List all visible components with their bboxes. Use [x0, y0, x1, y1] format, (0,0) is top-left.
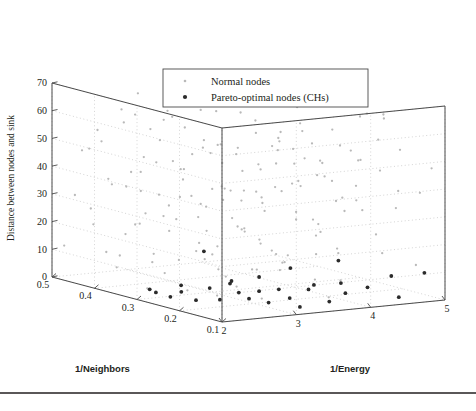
data-point-normal: [259, 242, 261, 244]
data-point-normal: [236, 225, 238, 227]
data-point-normal: [124, 233, 126, 235]
data-point-normal: [331, 128, 333, 130]
data-point-normal: [172, 160, 174, 162]
data-point-normal: [359, 115, 361, 117]
data-point-normal: [175, 218, 177, 220]
data-point-normal: [280, 190, 282, 192]
data-point-normal: [316, 174, 318, 176]
legend-label: Normal nodes: [211, 76, 270, 87]
data-point-pareto: [337, 259, 341, 263]
data-point-normal: [241, 170, 243, 172]
data-point-normal: [96, 129, 98, 131]
data-point-normal: [258, 238, 260, 240]
data-point-normal: [397, 190, 399, 192]
data-point-normal: [321, 162, 323, 164]
data-point-pareto: [397, 295, 401, 299]
data-point-normal: [283, 261, 285, 263]
data-point-normal: [271, 145, 273, 147]
data-point-normal: [184, 126, 186, 128]
data-point-normal: [357, 159, 359, 161]
data-point-normal: [235, 285, 237, 287]
data-point-normal: [204, 258, 206, 260]
data-point-normal: [314, 278, 316, 280]
data-point-normal: [149, 128, 151, 130]
data-point-normal: [295, 218, 297, 220]
data-point-pareto: [344, 291, 348, 295]
data-point-normal: [168, 204, 170, 206]
data-point-normal: [239, 111, 241, 113]
data-point-normal: [277, 137, 279, 139]
data-point-pareto: [307, 288, 311, 292]
data-point-normal: [254, 119, 256, 121]
data-point-normal: [171, 116, 173, 118]
data-point-normal: [240, 199, 242, 201]
axis-tick-label: 3: [296, 318, 301, 329]
data-point-pareto: [148, 287, 152, 291]
data-point-normal: [111, 183, 113, 185]
data-point-pareto: [257, 289, 261, 293]
data-point-normal: [379, 169, 381, 171]
data-point-normal: [377, 139, 379, 141]
data-point-normal: [125, 185, 127, 187]
axis-tick-label: 70: [37, 77, 47, 88]
data-point-normal: [381, 252, 383, 254]
data-point-normal: [90, 207, 92, 209]
data-point-pareto: [423, 271, 427, 275]
data-point-normal: [328, 296, 330, 298]
data-point-normal: [297, 180, 299, 182]
axis-title: 1/Neighbors: [75, 363, 130, 374]
axis-title: 1/Energy: [330, 363, 371, 374]
data-point-normal: [191, 153, 193, 155]
data-point-normal: [281, 262, 283, 264]
data-point-normal: [299, 122, 301, 124]
data-point-normal: [336, 247, 338, 249]
data-point-normal: [261, 297, 263, 299]
data-point-normal: [430, 167, 432, 169]
axis-tick-label: 30: [37, 188, 47, 199]
data-point-normal: [200, 203, 202, 205]
data-point-normal: [337, 252, 339, 254]
data-point-normal: [143, 156, 145, 158]
legend-box[interactable]: Normal nodesPareto-optimal nodes (CHs): [163, 69, 368, 107]
axis-tick-label: 0.5: [37, 279, 50, 290]
data-point-normal: [279, 269, 281, 271]
data-point-normal: [319, 160, 321, 162]
data-point-normal: [293, 163, 295, 165]
data-point-normal: [120, 108, 122, 110]
axis-tick-label: 0.1: [207, 324, 220, 335]
data-point-pareto: [366, 285, 370, 289]
data-point-normal: [134, 223, 136, 225]
data-point-normal: [331, 180, 333, 182]
data-point-normal: [182, 178, 184, 180]
data-point-pareto: [179, 283, 183, 287]
data-point-normal: [415, 264, 417, 266]
data-point-normal: [315, 234, 317, 236]
data-point-normal: [100, 140, 102, 142]
data-point-normal: [215, 110, 217, 112]
data-point-normal: [355, 185, 357, 187]
axis-title: Distance between nodes and sink: [6, 115, 16, 241]
data-point-pareto: [267, 301, 271, 305]
data-point-normal: [312, 218, 314, 220]
data-point-normal: [195, 250, 197, 252]
data-point-normal: [279, 131, 281, 133]
data-point-normal: [186, 289, 188, 291]
data-point-normal: [217, 144, 219, 146]
axis-titles: Distance between nodes and sink1/Neighbo…: [6, 115, 371, 374]
data-point-normal: [256, 268, 258, 270]
data-point-pareto: [339, 281, 343, 285]
data-point-normal: [198, 242, 200, 244]
data-point-normal: [197, 216, 199, 218]
data-point-normal: [241, 228, 243, 230]
legend-marker: [183, 95, 187, 99]
data-point-pareto: [194, 298, 198, 302]
data-point-normal: [343, 210, 345, 212]
data-point-normal: [278, 140, 280, 142]
data-point-normal: [235, 153, 237, 155]
data-point-normal: [140, 171, 142, 173]
data-point-normal: [225, 275, 227, 277]
axis-ticks: [52, 82, 445, 322]
axis-tick-label: 0.3: [122, 302, 135, 313]
axis-tick-label: 50: [37, 133, 47, 144]
data-point-normal: [211, 188, 213, 190]
